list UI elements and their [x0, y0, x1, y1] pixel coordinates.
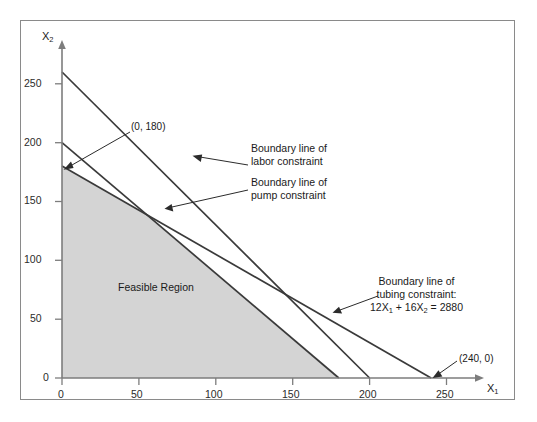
- labor-constraint-line1: Boundary line of: [251, 142, 327, 155]
- x-tick-label-200: 200: [359, 388, 377, 400]
- tubing-constraint-line1: Boundary line of: [370, 275, 463, 288]
- point-label-240-0: (240, 0): [459, 353, 493, 364]
- leader-labor-constraint: [193, 155, 249, 166]
- x-axis-ticks: [62, 378, 447, 385]
- leader-point-240-0: [433, 361, 458, 378]
- y-axis-ticks: [55, 84, 62, 378]
- chart-canvas: [0, 0, 537, 422]
- x-tick-label-250: 250: [436, 388, 454, 400]
- pump-constraint-line2: pump constraint: [251, 189, 327, 202]
- y-tick-label-100: 100: [24, 253, 42, 265]
- x-tick-label-100: 100: [205, 388, 223, 400]
- labor-constraint-annotation: Boundary line of labor constraint: [251, 142, 327, 168]
- y-axis-arrow-icon: [58, 40, 66, 49]
- leader-pump-constraint: [165, 190, 249, 212]
- point-label-0-180: (0, 180): [131, 121, 165, 132]
- x-tick-label-150: 150: [282, 388, 300, 400]
- y-tick-label-200: 200: [24, 136, 42, 148]
- pump-constraint-annotation: Boundary line of pump constraint: [251, 176, 327, 202]
- x-tick-label-50: 50: [131, 388, 143, 400]
- tubing-constraint-equation: 12X1 + 16X2 = 2880: [370, 301, 463, 315]
- y-tick-label-150: 150: [24, 194, 42, 206]
- feasible-region-label: Feasible Region: [118, 281, 194, 293]
- x-axis-label: X1: [487, 382, 499, 394]
- tubing-constraint-line2: tubing constraint:: [370, 288, 463, 301]
- y-tick-label-0: 0: [43, 371, 49, 383]
- tubing-constraint-annotation: Boundary line of tubing constraint: 12X1…: [370, 275, 463, 315]
- chart-figure: X2 X1 0 50 100 150 200 250 0 50 100 150 …: [0, 0, 537, 422]
- labor-constraint-line2: labor constraint: [251, 155, 327, 168]
- pump-constraint-line1: Boundary line of: [251, 176, 327, 189]
- x-axis-arrow-icon: [475, 374, 484, 382]
- y-tick-label-250: 250: [24, 77, 42, 89]
- y-axis-label: X2: [42, 30, 54, 42]
- x-tick-label-0: 0: [58, 388, 64, 400]
- y-tick-label-50: 50: [30, 312, 42, 324]
- leader-point-0-180: [64, 132, 131, 170]
